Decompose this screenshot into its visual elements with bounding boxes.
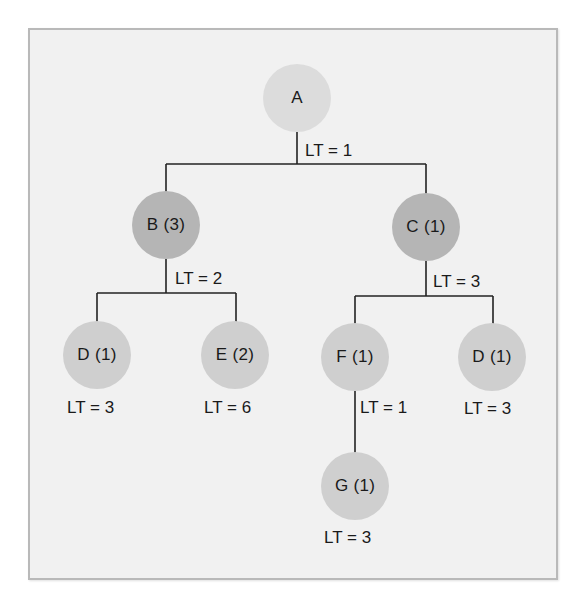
lead-time-e: LT = 6 — [204, 398, 251, 418]
node-f-label: F (1) — [336, 347, 373, 367]
node-e: E (2) — [201, 321, 269, 389]
lead-time-g: LT = 3 — [324, 528, 371, 548]
lead-time-d-left: LT = 3 — [67, 398, 114, 418]
node-e-label: E (2) — [216, 345, 254, 365]
node-d-right-label: D (1) — [472, 347, 511, 367]
node-d-left: D (1) — [63, 321, 131, 389]
lead-time-f: LT = 1 — [360, 398, 407, 418]
node-f: F (1) — [321, 323, 389, 391]
node-c: C (1) — [392, 193, 460, 261]
node-b-label: B (3) — [147, 215, 185, 235]
node-d-right: D (1) — [458, 323, 526, 391]
lead-time-c: LT = 3 — [433, 272, 480, 292]
node-a: A — [263, 64, 331, 132]
lead-time-b: LT = 2 — [175, 269, 222, 289]
node-d-left-label: D (1) — [77, 345, 116, 365]
lead-time-d-right: LT = 3 — [464, 399, 511, 419]
node-g-label: G (1) — [335, 476, 375, 496]
node-g: G (1) — [321, 452, 389, 520]
lead-time-a: LT = 1 — [305, 141, 352, 161]
node-c-label: C (1) — [406, 217, 445, 237]
node-a-label: A — [291, 88, 303, 108]
node-b: B (3) — [132, 191, 200, 259]
